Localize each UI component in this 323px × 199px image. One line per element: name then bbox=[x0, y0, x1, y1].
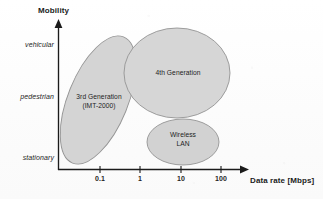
x-axis-arrowhead bbox=[240, 166, 249, 174]
y-tick-label-pedestrian: pedestrian bbox=[0, 93, 54, 100]
region-label-wlan-line1: Wireless bbox=[152, 131, 214, 140]
x-tick-label-3: 100 bbox=[207, 175, 235, 182]
region-label-3g-line1: 3rd Generation bbox=[62, 93, 136, 102]
region-label-4g-line1: 4th Generation bbox=[142, 69, 214, 78]
figure-canvas: Mobility Data rate [Mbps] vehicular pede… bbox=[0, 0, 323, 199]
x-axis-title: Data rate [Mbps] bbox=[250, 176, 314, 185]
y-axis-arrowhead bbox=[55, 19, 63, 28]
region-label-wlan-line2: LAN bbox=[152, 140, 214, 149]
x-tick-label-1: 1 bbox=[126, 175, 154, 182]
x-tick-label-0: 0.1 bbox=[86, 175, 114, 182]
y-tick-label-stationary: stationary bbox=[0, 154, 54, 161]
region-label-3g: 3rd Generation (IMT-2000) bbox=[62, 93, 136, 111]
y-axis-title: Mobility bbox=[38, 6, 69, 15]
region-label-4g: 4th Generation bbox=[142, 69, 214, 78]
region-label-wlan: Wireless LAN bbox=[152, 131, 214, 149]
y-tick-label-vehicular: vehicular bbox=[0, 41, 54, 48]
region-label-3g-line2: (IMT-2000) bbox=[62, 102, 136, 111]
x-tick-label-2: 10 bbox=[167, 175, 195, 182]
